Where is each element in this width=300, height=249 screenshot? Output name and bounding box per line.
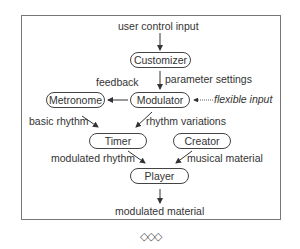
label-basic-rhythm: basic rhythm [29,115,89,127]
label-flexible-input: flexible input [214,93,272,105]
label-modulated-rhythm: modulated rhythm [51,152,135,164]
node-modulator: Modulator [130,92,190,108]
node-creator: Creator [173,133,231,149]
label-feedback: feedback [96,76,139,88]
node-metronome: Metronome [46,92,105,108]
label-modulated-material: modulated material [115,205,204,217]
label-rhythm-variations: rhythm variations [146,115,226,127]
section-separator-diamonds: ◇◇◇ [0,230,300,243]
node-player: Player [130,168,189,184]
label-user-control-input: user control input [118,20,199,32]
label-musical-material: musical material [187,152,263,164]
node-timer: Timer [89,133,147,149]
label-parameter-settings: parameter settings [165,73,252,85]
node-customizer: Customizer [130,52,191,68]
